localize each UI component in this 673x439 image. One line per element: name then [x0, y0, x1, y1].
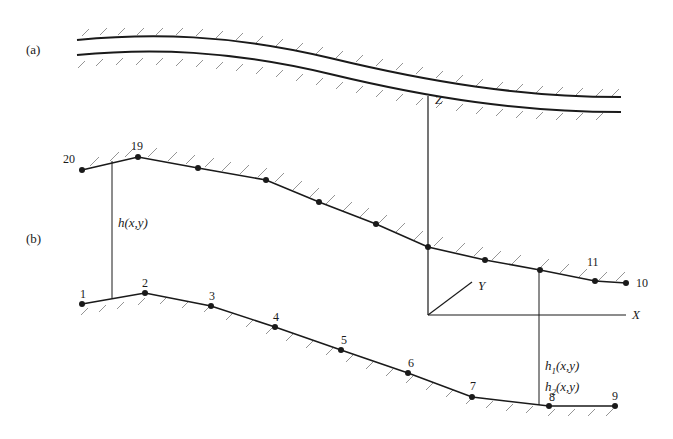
lower-boundary-line	[82, 293, 615, 406]
upper-boundary-hatch	[90, 148, 625, 281]
h1-label: h1(x,y)	[545, 358, 579, 376]
panel-a-upper-wall	[77, 36, 621, 97]
node-label-1: 1	[80, 287, 86, 301]
panel-b-label: (b)	[26, 231, 41, 246]
z-axis-label: Z	[435, 92, 443, 107]
gap-height-label: h(x,y)	[118, 215, 148, 230]
channel-geometry-figure: (a) (b)	[0, 0, 673, 439]
panel-a: (a)	[26, 28, 621, 120]
upper-nodes	[79, 154, 629, 286]
x-axis-label: X	[631, 307, 641, 322]
node-label-3: 3	[209, 289, 215, 303]
node-label-11: 11	[587, 255, 599, 269]
node-label-10: 10	[636, 276, 648, 290]
y-axis	[428, 282, 472, 315]
y-axis-label: Y	[478, 278, 487, 293]
panel-a-label: (a)	[26, 42, 40, 57]
node-label-2: 2	[142, 276, 148, 290]
node-label-9: 9	[612, 389, 618, 403]
panel-a-lower-hatch	[78, 58, 603, 120]
node-label-20: 20	[63, 152, 75, 166]
node-label-19: 19	[131, 139, 143, 153]
panel-a-lower-wall	[77, 51, 621, 112]
lower-nodes	[79, 290, 618, 409]
node-label-7: 7	[470, 379, 476, 393]
node-label-6: 6	[408, 356, 414, 370]
node-label-4: 4	[273, 310, 279, 324]
panel-b: (b)	[26, 92, 648, 416]
node-label-5: 5	[341, 333, 347, 347]
